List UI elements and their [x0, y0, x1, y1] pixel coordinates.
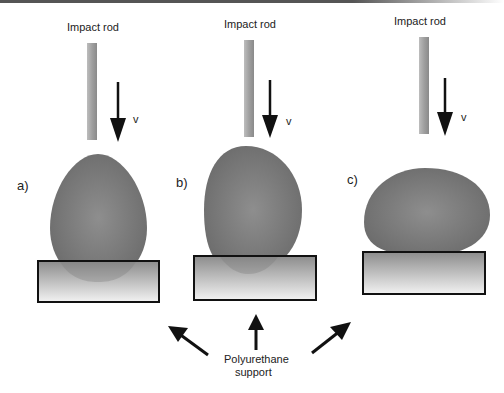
panel-label-b: b) — [176, 175, 188, 190]
support-label-line1: Polyurethane — [224, 353, 289, 365]
egg-c — [364, 168, 490, 256]
impact-rod-a — [87, 43, 97, 140]
velocity-label-a: v — [133, 113, 139, 125]
velocity-label-b: v — [286, 115, 292, 127]
panel-b — [194, 40, 316, 300]
panel-label-c: c) — [347, 172, 358, 187]
panel-a — [38, 43, 159, 302]
rod-label-b: Impact rod — [224, 18, 276, 30]
support-label-line2: support — [235, 366, 272, 378]
panel-label-a: a) — [17, 178, 29, 193]
rod-label-c: Impact rod — [394, 15, 446, 27]
egg-b — [204, 146, 302, 274]
impact-rod-c — [419, 37, 429, 134]
rod-label-a: Impact rod — [67, 21, 119, 33]
impact-rod-b — [244, 40, 254, 137]
diagram-canvas — [0, 0, 504, 393]
support-c — [363, 252, 485, 294]
support-arrows — [168, 314, 351, 355]
velocity-label-c: v — [461, 111, 467, 123]
panel-c — [363, 37, 490, 294]
